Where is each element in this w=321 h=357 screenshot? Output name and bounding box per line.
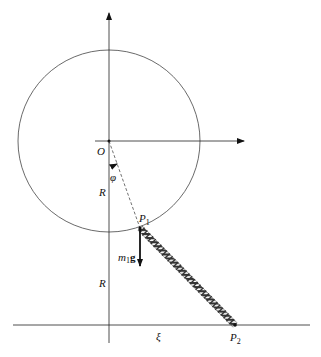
dashed-radius — [109, 141, 140, 228]
label-origin: O — [97, 145, 105, 157]
label-gravity: m1g — [118, 251, 136, 265]
label-angle: φ — [110, 171, 116, 183]
angle-arc-icon — [109, 164, 117, 165]
point-p2 — [233, 323, 237, 327]
label-xi: ξ — [156, 330, 161, 343]
label-radius-lower: R — [98, 277, 106, 289]
diagram-canvas: O φ R R P1 m1g ξ P2 — [0, 0, 321, 357]
label-p2: P2 — [229, 331, 241, 346]
label-radius-upper: R — [98, 186, 106, 198]
